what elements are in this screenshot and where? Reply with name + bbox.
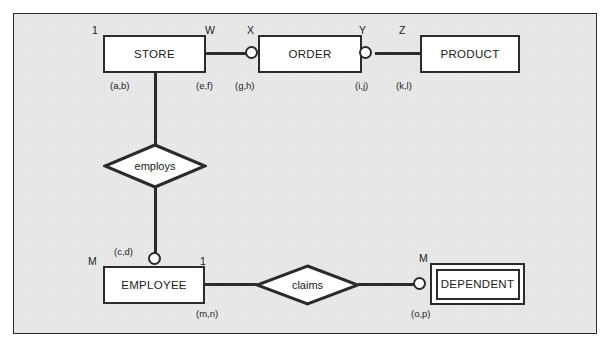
connector-store-employs [154, 72, 157, 144]
optionality-circle-dependent-left [413, 277, 426, 290]
cardinality-employee-left: M [88, 255, 97, 267]
participation-pair-ab: (a,b) [110, 80, 130, 91]
relationship-claims[interactable]: claims [255, 264, 360, 306]
connector-employs-employee [154, 187, 157, 255]
relationship-employs-label: employs [103, 143, 207, 189]
cardinality-product-left: Z [399, 24, 405, 36]
entity-order[interactable]: ORDER [258, 35, 362, 73]
er-diagram-page: STORE ORDER PRODUCT EMPLOYEE DEPENDENT e… [0, 0, 612, 351]
entity-dependent-inner-border: DEPENDENT [436, 269, 520, 300]
entity-product-label: PRODUCT [441, 48, 500, 60]
cardinality-store-right: W [205, 24, 215, 36]
cardinality-store-left: 1 [92, 24, 98, 36]
cardinality-order-right: Y [359, 24, 366, 36]
entity-employee[interactable]: EMPLOYEE [103, 266, 205, 304]
connector-employee-claims [204, 283, 257, 286]
cardinality-dependent-left: M [419, 252, 428, 264]
optionality-circle-order-left [245, 46, 258, 59]
relationship-employs[interactable]: employs [103, 143, 207, 189]
participation-pair-ef: (e,f) [196, 80, 213, 91]
participation-pair-gh: (g,h) [235, 80, 255, 91]
entity-order-label: ORDER [288, 48, 331, 60]
cardinality-employee-right: 1 [200, 255, 206, 267]
relationship-claims-label: claims [255, 264, 360, 306]
optionality-circle-order-right [359, 46, 372, 59]
entity-dependent-label: DEPENDENT [441, 278, 515, 290]
entity-dependent[interactable]: DEPENDENT [430, 263, 525, 305]
participation-pair-op: (o,p) [411, 308, 431, 319]
diagram-canvas: STORE ORDER PRODUCT EMPLOYEE DEPENDENT e… [0, 0, 612, 351]
entity-store-label: STORE [134, 48, 175, 60]
participation-pair-ij: (i,j) [355, 80, 368, 91]
participation-pair-cd: (c,d) [114, 246, 133, 257]
connector-claims-dependent [358, 283, 416, 286]
connector-order-product [375, 52, 421, 55]
entity-employee-label: EMPLOYEE [121, 279, 187, 291]
optionality-circle-employee-top [148, 252, 161, 265]
participation-pair-mn: (m,n) [196, 308, 218, 319]
entity-store[interactable]: STORE [103, 35, 206, 73]
participation-pair-kl: (k,l) [396, 80, 412, 91]
cardinality-order-left: X [247, 24, 254, 36]
entity-product[interactable]: PRODUCT [420, 35, 520, 73]
